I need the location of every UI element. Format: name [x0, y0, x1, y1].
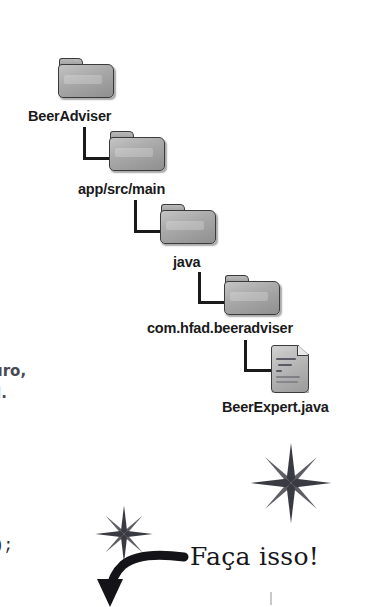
connector-horizontal-segment: [198, 301, 225, 304]
connector-horizontal-segment: [244, 369, 272, 372]
tree-connector: [83, 127, 110, 160]
folder-body-shape: [109, 137, 165, 171]
file-code-line: [276, 376, 300, 378]
connector-vertical-segment: [134, 200, 137, 233]
folder-sheen: [230, 292, 268, 301]
code-fragment: );: [0, 537, 13, 555]
tree-node-label-app-src-main: app/src/main: [78, 181, 165, 197]
tree-connector: [244, 340, 272, 372]
connector-vertical-segment: [244, 340, 247, 372]
folder-icon[interactable]: [160, 204, 216, 248]
file-code-line: [276, 358, 296, 360]
page-tick-mark: [270, 592, 272, 605]
folder-body-shape: [58, 64, 114, 98]
connector-vertical-segment: [83, 127, 86, 160]
sparkle-star-icon: [249, 441, 333, 525]
folder-icon[interactable]: [109, 131, 165, 175]
file-code-line: [278, 364, 292, 366]
tree-node-label-beerexpert-java: BeerExpert.java: [222, 399, 329, 415]
folder-sheen: [166, 221, 204, 230]
tree-node-label-com-hfad-beeradviser: com.hfad.beeradviser: [147, 320, 293, 336]
folder-sheen: [115, 148, 153, 157]
callout-label: Faça isso!: [190, 542, 319, 571]
folder-icon[interactable]: [224, 275, 280, 319]
tree-node-label-java: java: [173, 254, 200, 270]
tree-connector: [134, 200, 161, 233]
connector-horizontal-segment: [83, 157, 110, 160]
folder-body-shape: [160, 210, 216, 244]
folder-body-shape: [224, 281, 280, 315]
handwriting-annotation-fragment-1: uro,: [0, 362, 26, 380]
tree-node-label-beeradviser: BeerAdviser: [28, 108, 111, 124]
curved-arrow-icon: [84, 545, 190, 607]
folder-icon[interactable]: [58, 58, 114, 102]
java-file-icon[interactable]: [271, 345, 309, 393]
file-code-line: [276, 381, 298, 383]
connector-vertical-segment: [198, 272, 201, 304]
connector-horizontal-segment: [134, 230, 161, 233]
handwriting-annotation-fragment-2: l.: [0, 384, 7, 402]
file-code-line: [276, 370, 282, 372]
page-canvas: BeerAdviser app/src/main java: [0, 0, 380, 607]
folder-sheen: [64, 75, 102, 84]
tree-connector: [198, 272, 225, 304]
